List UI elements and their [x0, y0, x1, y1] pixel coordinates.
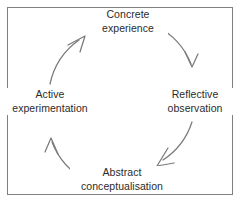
node-label-line-2: conceptualisation — [70, 180, 174, 194]
arrow-active-to-concrete — [50, 36, 85, 84]
node-label-line-2: experience — [88, 22, 168, 36]
node-label-line-2: experimentation — [6, 102, 94, 116]
node-label-line-1: Concrete — [88, 8, 168, 22]
node-concrete-experience: Concrete experience — [88, 8, 168, 35]
node-abstract-conceptualisation: Abstract conceptualisation — [70, 166, 174, 193]
node-label-line-2: observation — [155, 102, 235, 116]
arrow-reflective-to-abstract — [157, 122, 192, 166]
experiential-learning-cycle-figure: Concrete experience Reflective observati… — [0, 0, 243, 206]
node-active-experimentation: Active experimentation — [6, 88, 94, 115]
node-label-line-1: Active — [6, 88, 94, 102]
node-label-line-1: Abstract — [70, 166, 174, 180]
node-reflective-observation: Reflective observation — [155, 88, 235, 115]
node-label-line-1: Reflective — [155, 88, 235, 102]
